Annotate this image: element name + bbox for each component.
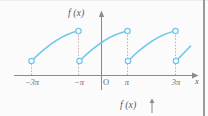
open-point-high-pi (125, 28, 130, 33)
branch-1 (32, 31, 79, 61)
open-point-low-3pi (173, 58, 178, 63)
page-right-edge (203, 0, 205, 116)
x-axis-label: x (195, 77, 199, 86)
next-figure-y-axis-label: f (x) (120, 100, 136, 110)
open-point-high-negpi (76, 28, 81, 33)
open-point-markers (29, 28, 179, 63)
branch-3 (128, 31, 176, 61)
open-point-low-pi (125, 58, 130, 63)
x-tick-label-neg-pi: −π (66, 78, 92, 87)
x-tick-label-pi: π (118, 78, 136, 87)
dotted-guides (32, 31, 176, 75)
origin-label: O (103, 78, 109, 87)
plot-canvas (0, 0, 208, 116)
next-figure-y-axis-arrow (148, 98, 158, 114)
function-branches (32, 31, 191, 61)
branch-2 (80, 31, 128, 61)
x-tick-label-3pi: 3π (163, 78, 189, 87)
open-point-low-neg3pi (29, 58, 34, 63)
figure-container: f (x) x O −3π −π π 3π f (x) (0, 0, 208, 116)
open-point-high-3pi (173, 28, 178, 33)
x-tick-label-neg-3pi: −3π (19, 78, 45, 87)
y-axis-label: f (x) (68, 8, 84, 18)
open-point-low-negpi (77, 58, 82, 63)
